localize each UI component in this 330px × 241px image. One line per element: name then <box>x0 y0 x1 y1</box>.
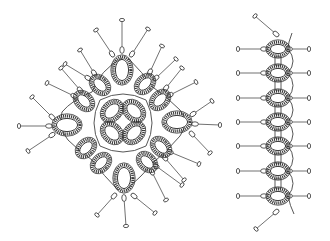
pin-head-icon <box>307 95 310 100</box>
pin <box>236 119 267 124</box>
big-ring <box>162 111 192 133</box>
pin-head-icon <box>236 143 239 148</box>
pin-head-icon <box>179 65 185 71</box>
pin-head-icon <box>145 26 151 31</box>
picot <box>120 47 124 54</box>
pin <box>62 61 92 82</box>
strip-ring <box>266 89 290 107</box>
pin-head-icon <box>236 193 239 198</box>
pin-head-icon <box>209 98 215 104</box>
picot <box>261 194 268 198</box>
pin-head-icon <box>307 193 310 198</box>
picot <box>261 169 268 173</box>
picot <box>48 131 56 138</box>
picot <box>261 71 268 75</box>
pin-head-icon <box>236 119 239 124</box>
pin <box>130 192 158 216</box>
pin-head-icon <box>25 148 31 154</box>
strip-ring <box>266 40 290 58</box>
picot <box>261 47 268 51</box>
pin <box>94 192 118 218</box>
pin-head-icon <box>77 47 83 52</box>
pin-head-icon <box>236 70 239 75</box>
pin-head-icon <box>163 197 169 202</box>
big-ring <box>111 55 133 85</box>
strip-ring <box>266 187 290 205</box>
pin <box>93 27 116 58</box>
strip-ring <box>266 137 290 155</box>
pin-head-icon <box>307 70 310 75</box>
clover-ring <box>117 116 150 149</box>
pin <box>17 123 52 128</box>
picot <box>46 124 53 128</box>
side-ring <box>130 69 160 99</box>
pin <box>236 193 267 198</box>
inner-chain <box>94 94 152 152</box>
side-ring <box>132 147 162 177</box>
pin-head-icon <box>307 143 310 148</box>
pin <box>236 46 267 51</box>
pin <box>152 56 179 82</box>
pin-head-icon <box>307 46 310 51</box>
pin <box>122 194 129 227</box>
pin <box>58 65 84 94</box>
strip-ring <box>266 162 290 180</box>
pin <box>192 122 222 128</box>
pin <box>166 149 201 167</box>
big-ring <box>113 163 135 193</box>
pin <box>236 95 267 100</box>
big-ring <box>52 114 82 136</box>
pin <box>161 154 187 183</box>
pin-head-icon <box>307 168 310 173</box>
picot <box>261 96 268 100</box>
picot <box>192 122 199 127</box>
pin-head-icon <box>93 27 99 33</box>
picot <box>261 120 268 124</box>
pin <box>29 94 56 121</box>
pin-head-icon <box>159 43 165 48</box>
picot <box>147 68 154 76</box>
pin-head-icon <box>218 122 221 127</box>
pin-head-icon <box>17 123 20 128</box>
pin <box>188 130 213 156</box>
pin <box>253 208 280 232</box>
pin <box>236 168 267 173</box>
pin-head-icon <box>123 224 128 228</box>
pin-head-icon <box>236 95 239 100</box>
square-motif <box>17 18 221 227</box>
pin <box>252 13 280 38</box>
pin <box>147 43 165 76</box>
pin <box>128 26 151 58</box>
pin <box>189 98 215 118</box>
pin-head-icon <box>152 210 158 216</box>
pin-head-icon <box>119 18 124 21</box>
pin-head-icon <box>197 161 202 167</box>
picot <box>122 194 127 201</box>
pin-head-icon <box>193 79 198 85</box>
pin-head-icon <box>307 119 310 124</box>
pin <box>119 18 124 53</box>
pin-head-icon <box>179 182 185 188</box>
pin <box>236 143 267 148</box>
lace-diagram <box>0 0 330 241</box>
picot <box>261 144 268 148</box>
tatting-illustration <box>0 0 330 241</box>
picot <box>128 50 135 58</box>
pin-head-icon <box>236 46 239 51</box>
pin-head-icon <box>236 168 239 173</box>
pin <box>236 70 267 75</box>
pin <box>25 131 56 154</box>
picot <box>108 50 115 58</box>
strip-ring <box>266 64 290 82</box>
pin-head-icon <box>44 80 49 86</box>
strip-ring <box>266 113 290 131</box>
pin <box>77 47 98 77</box>
edging-strip <box>236 13 310 232</box>
